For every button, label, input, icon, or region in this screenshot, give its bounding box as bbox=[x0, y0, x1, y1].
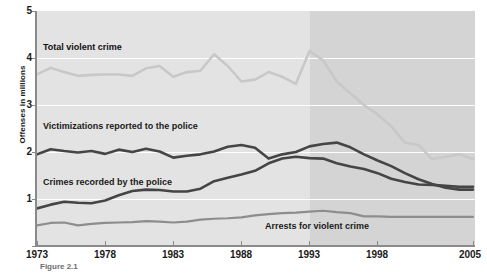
series-label-arrests: Arrests for violent crime bbox=[265, 221, 369, 231]
y-tick-label-3: 3 bbox=[16, 99, 32, 110]
x-tick-1978 bbox=[105, 241, 106, 245]
x-tick-label-1998: 1998 bbox=[357, 249, 397, 260]
figure-caption: Figure 2.1 bbox=[40, 262, 78, 275]
x-tick-1988 bbox=[241, 241, 242, 245]
figure-violent-crime-trends: Offenses in millions 1 2 3 4 5 Total vio… bbox=[0, 0, 487, 277]
x-tick-label-1978: 1978 bbox=[85, 249, 125, 260]
x-tick-1973 bbox=[37, 241, 38, 245]
x-tick-1983 bbox=[173, 241, 174, 245]
x-tick-label-2005: 2005 bbox=[450, 249, 487, 260]
x-tick-2005 bbox=[473, 241, 474, 245]
x-tick-label-1993: 1993 bbox=[289, 249, 329, 260]
y-tick-label-4: 4 bbox=[16, 52, 32, 63]
y-tick-label-2: 2 bbox=[16, 146, 32, 157]
line-arrests-for-violent-crime bbox=[37, 211, 473, 226]
y-tick-label-5: 5 bbox=[16, 5, 32, 16]
x-tick-label-1983: 1983 bbox=[153, 249, 193, 260]
x-tick-1998 bbox=[377, 241, 378, 245]
x-tick-label-1973: 1973 bbox=[17, 249, 57, 260]
x-tick-1993 bbox=[309, 241, 310, 245]
plot-area: Total violent crime Victimizations repor… bbox=[37, 11, 475, 246]
x-axis-line bbox=[35, 245, 475, 247]
series-label-victimizations: Victimizations reported to the police bbox=[43, 121, 198, 131]
series-label-total-violent-crime: Total violent crime bbox=[43, 42, 122, 52]
line-total-violent-crime bbox=[37, 51, 473, 159]
y-axis-line bbox=[35, 11, 37, 247]
series-label-crimes-recorded: Crimes recorded by the police bbox=[43, 177, 172, 187]
y-tick-label-1: 1 bbox=[16, 193, 32, 204]
x-tick-label-1988: 1988 bbox=[221, 249, 261, 260]
